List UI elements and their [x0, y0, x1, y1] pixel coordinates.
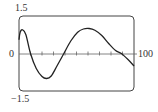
- y-max-label: 1.5: [15, 3, 28, 13]
- y-min-label: −1.5: [11, 94, 29, 104]
- x-axis-ticks: [31, 52, 123, 56]
- x-max-label: 100: [138, 49, 153, 59]
- origin-label: 0: [9, 49, 14, 59]
